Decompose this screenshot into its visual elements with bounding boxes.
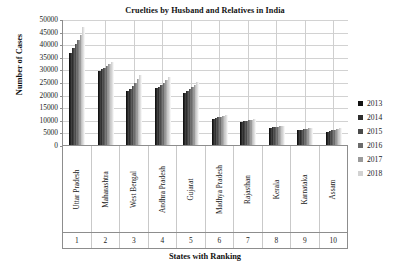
state-label-cell: Karnataka [291, 146, 320, 232]
y-tick-label: 15000 [18, 103, 58, 112]
legend-swatch-icon [358, 129, 363, 134]
bar-group [120, 20, 149, 145]
legend-item-2013[interactable]: 2013 [358, 96, 382, 110]
state-label: West Bengal [129, 171, 138, 208]
state-label: Madhya Pradesh [215, 165, 224, 214]
y-tick-label: 10000 [18, 116, 58, 125]
state-label-cell: Madhya Pradesh [206, 146, 235, 232]
rank-label: 7 [234, 233, 263, 248]
legend-label: 2013 [367, 99, 382, 108]
bar-2018 [225, 115, 228, 145]
bar-group [234, 20, 263, 145]
state-label: Kerala [272, 180, 281, 199]
legend-label: 2014 [367, 113, 382, 122]
legend-item-2015[interactable]: 2015 [358, 124, 382, 138]
y-tick-label: 40000 [18, 40, 58, 49]
bar-2018 [253, 119, 256, 145]
group-separator [333, 20, 334, 145]
state-label: Rajasthan [243, 175, 252, 204]
bar-group [263, 20, 292, 145]
group-separator [305, 20, 306, 145]
rank-label: 5 [177, 233, 206, 248]
state-label-cell: Kerala [263, 146, 292, 232]
rank-label: 6 [206, 233, 235, 248]
bar-2018 [310, 128, 313, 145]
y-tick-label: 20000 [18, 91, 58, 100]
rank-label: 4 [149, 233, 178, 248]
state-label-band: Uttar PradeshMaharashtraWest BengalAndhr… [62, 146, 348, 233]
bar-2018 [196, 82, 199, 145]
state-label: Andhra Pradesh [158, 166, 167, 213]
legend-item-2018[interactable]: 2018 [358, 166, 382, 180]
bar-chart: Cruelties by Husband and Relatives in In… [0, 0, 412, 277]
y-tick-label: 35000 [18, 53, 58, 62]
legend-swatch-icon [358, 171, 363, 176]
state-label: Assam [329, 180, 338, 200]
legend-label: 2015 [367, 127, 382, 136]
legend-swatch-icon [358, 115, 363, 120]
bar-2018 [282, 126, 285, 145]
legend-label: 2016 [367, 141, 382, 150]
y-tick-label: 50000 [18, 15, 58, 24]
rank-label: 1 [63, 233, 92, 248]
bar-group [177, 20, 206, 145]
state-label: Karnataka [300, 175, 309, 205]
bar-2018 [82, 27, 85, 145]
state-label: Maharashtra [101, 171, 110, 207]
bar-group [92, 20, 121, 145]
bar-2018 [339, 128, 342, 145]
rank-label: 8 [263, 233, 292, 248]
bar-group [206, 20, 235, 145]
ranking-band: 12345678910 [62, 233, 348, 249]
state-label-cell: West Bengal [120, 146, 149, 232]
state-label-cell: Andhra Pradesh [149, 146, 178, 232]
legend-item-2017[interactable]: 2017 [358, 152, 382, 166]
state-label-cell: Gujarat [177, 146, 206, 232]
state-label: Gujarat [186, 179, 195, 201]
bar-2018 [111, 62, 114, 145]
state-label: Uttar Pradesh [72, 170, 81, 210]
bar-group [291, 20, 320, 145]
chart-legend: 201320142015201620172018 [358, 96, 382, 180]
y-tick-label: 0 [18, 141, 58, 150]
state-label-cell: Uttar Pradesh [63, 146, 92, 232]
x-axis-title: States with Ranking [62, 252, 348, 261]
rank-label: 9 [291, 233, 320, 248]
legend-item-2016[interactable]: 2016 [358, 138, 382, 152]
bar-group [63, 20, 92, 145]
bar-2018 [168, 77, 171, 145]
y-tick-label: 25000 [18, 78, 58, 87]
bar-groups [63, 20, 348, 145]
bar-2018 [139, 75, 142, 145]
legend-label: 2018 [367, 169, 382, 178]
rank-label: 2 [92, 233, 121, 248]
legend-item-2014[interactable]: 2014 [358, 110, 382, 124]
y-tick-label: 45000 [18, 28, 58, 37]
legend-swatch-icon [358, 101, 363, 106]
legend-swatch-icon [358, 143, 363, 148]
state-label-cell: Rajasthan [234, 146, 263, 232]
legend-swatch-icon [358, 157, 363, 162]
plot-area [62, 20, 348, 146]
rank-label: 10 [320, 233, 348, 248]
chart-title: Cruelties by Husband and Relatives in In… [55, 6, 355, 15]
state-label-cell: Assam [320, 146, 348, 232]
state-label-cell: Maharashtra [92, 146, 121, 232]
y-tick-label: 5000 [18, 128, 58, 137]
bar-group [149, 20, 178, 145]
bar-group [320, 20, 349, 145]
rank-label: 3 [120, 233, 149, 248]
legend-label: 2017 [367, 155, 382, 164]
y-tick-label: 30000 [18, 65, 58, 74]
